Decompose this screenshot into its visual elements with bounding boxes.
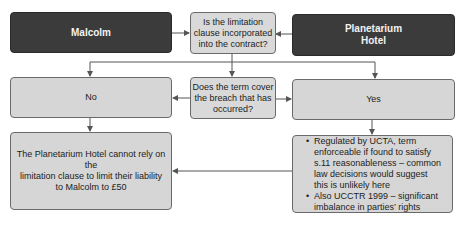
conclusion-line2: limitation clause to limit their liabili…	[11, 171, 171, 182]
breach-question-node: Does the term cover the breach that has …	[190, 77, 276, 119]
malcolm-label: Malcolm	[71, 27, 111, 39]
question1-line2: clause incorporated	[194, 28, 273, 39]
question2-line1: Does the term cover	[192, 82, 273, 93]
question1-line3: into the contract?	[194, 39, 273, 50]
planetarium-label-line1: Planetarium	[345, 23, 402, 35]
conclusion-line1: The Planetarium Hotel cannot rely on the	[11, 149, 171, 171]
planetarium-hotel-node: Planetarium Hotel	[292, 14, 455, 56]
malcolm-node: Malcolm	[10, 12, 172, 53]
planetarium-label-line2: Hotel	[345, 35, 402, 47]
question1-line1: Is the limitation	[194, 17, 273, 28]
conclusion-node: The Planetarium Hotel cannot rely on the…	[10, 132, 172, 210]
analysis-bullet: Also UCCTR 1999 – significant imbalance …	[314, 191, 444, 213]
no-node: No	[10, 77, 172, 118]
incorporation-question-node: Is the limitation clause incorporated in…	[190, 12, 276, 54]
analysis-node: Regulated by UCTA, term enforceable if f…	[292, 135, 453, 213]
analysis-bullets: Regulated by UCTA, term enforceable if f…	[305, 136, 444, 213]
no-label: No	[85, 92, 97, 103]
yes-node: Yes	[292, 79, 455, 120]
analysis-bullet: Regulated by UCTA, term enforceable if f…	[314, 136, 444, 191]
conclusion-line3: to Malcolm to £50	[11, 182, 171, 193]
question2-line3: occurred?	[192, 104, 273, 115]
question2-line2: the breach that has	[192, 93, 273, 104]
yes-label: Yes	[366, 94, 381, 105]
